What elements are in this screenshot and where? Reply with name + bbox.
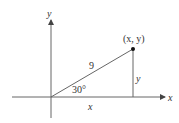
x-axis-label: x — [167, 92, 173, 103]
hypotenuse-label: 9 — [89, 60, 94, 71]
hypotenuse-line — [51, 49, 133, 97]
vertical-leg-label: y — [135, 73, 141, 84]
horizontal-leg-label: x — [87, 101, 93, 112]
triangle-diagram: y x (x, y) 9 30° x y — [0, 0, 179, 123]
point-label: (x, y) — [123, 33, 145, 45]
point-marker — [131, 47, 135, 51]
angle-label: 30° — [72, 84, 86, 95]
y-axis-label: y — [46, 8, 52, 19]
